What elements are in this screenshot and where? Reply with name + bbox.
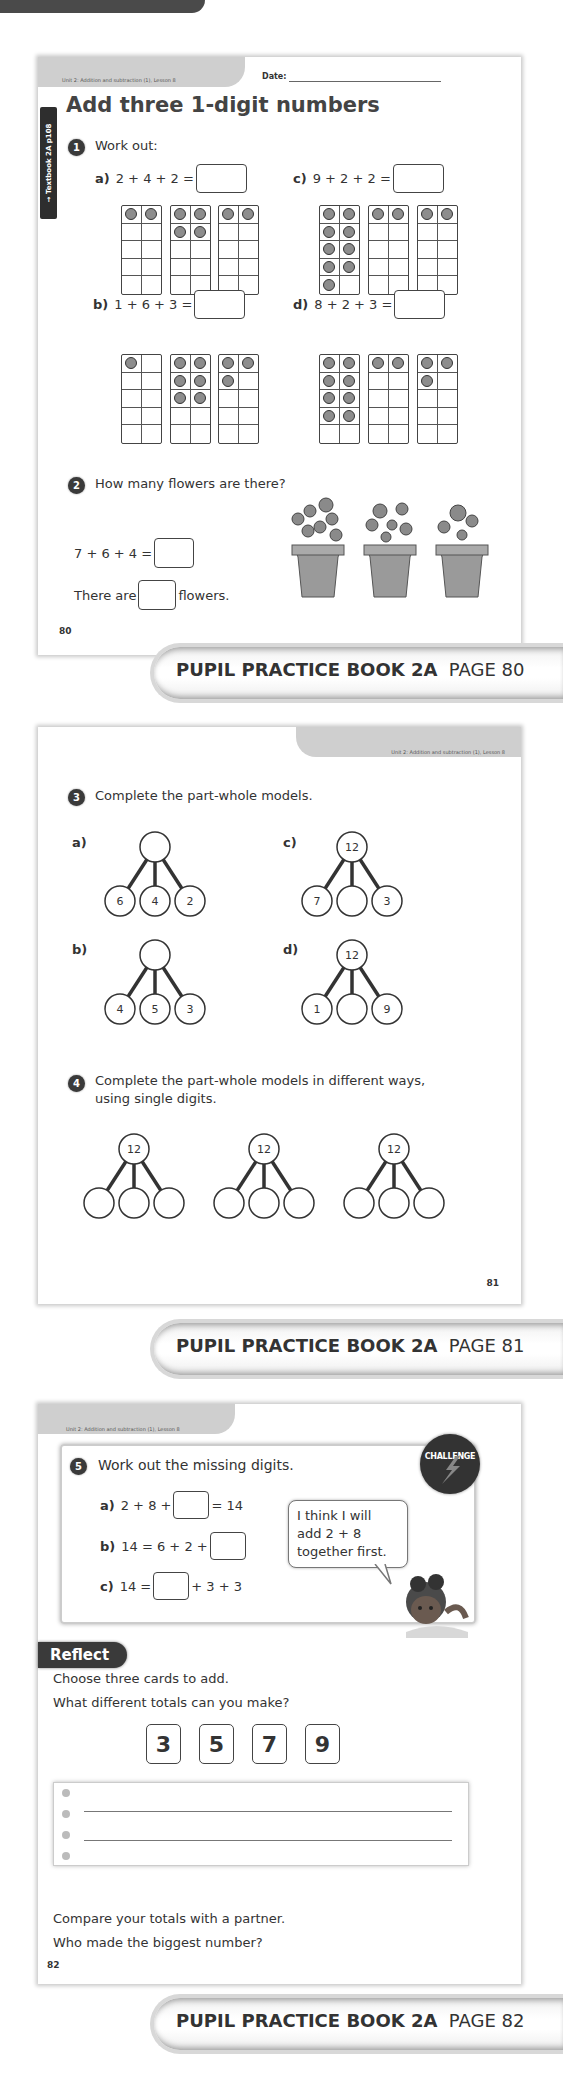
sentence-end: flowers. bbox=[178, 588, 229, 603]
question-number-1: 1 bbox=[68, 139, 85, 156]
ten-frame-cell bbox=[191, 425, 211, 443]
ten-frame-cell bbox=[171, 408, 191, 426]
counter-icon bbox=[194, 208, 206, 220]
question-number-4: 4 bbox=[68, 1075, 85, 1092]
answer-box[interactable] bbox=[210, 1532, 246, 1560]
ten-frame-cell bbox=[418, 408, 438, 426]
ten-frame-cell bbox=[122, 373, 142, 391]
q1-part-c: c) 9 + 2 + 2 = bbox=[293, 164, 444, 193]
counter-icon bbox=[194, 392, 206, 404]
counter-icon bbox=[174, 375, 186, 387]
svg-text:3: 3 bbox=[384, 895, 391, 908]
svg-text:12: 12 bbox=[387, 1143, 401, 1156]
ten-frame-cell bbox=[340, 355, 360, 373]
ten-frame-cell bbox=[142, 373, 162, 391]
whole-circle: 12 bbox=[337, 940, 367, 970]
q1-part-b: b) 1 + 6 + 3 = bbox=[93, 290, 245, 319]
ten-frame-cell bbox=[239, 408, 259, 426]
ten-frame-cell bbox=[171, 425, 191, 443]
part-label-d: d) bbox=[283, 942, 298, 957]
date-field[interactable] bbox=[289, 81, 441, 82]
question-4-prompt-line1: Complete the part-whole models in differ… bbox=[95, 1073, 425, 1088]
ten-frame-cell bbox=[320, 224, 340, 242]
flower-pot-icon bbox=[364, 503, 416, 597]
part-circle[interactable] bbox=[337, 994, 367, 1024]
ten-frame-cell bbox=[369, 355, 389, 373]
part-circle[interactable] bbox=[344, 1188, 374, 1218]
part-whole-model: 642 bbox=[104, 830, 206, 922]
part-circle[interactable] bbox=[119, 1188, 149, 1218]
part-circle[interactable] bbox=[154, 1188, 184, 1218]
ten-frame-cell bbox=[122, 408, 142, 426]
challenge-badge: CHALLENGE bbox=[420, 1434, 480, 1494]
page-number: 80 bbox=[59, 626, 72, 636]
number-card[interactable]: 3 bbox=[146, 1724, 181, 1764]
number-card[interactable]: 7 bbox=[252, 1724, 287, 1764]
ten-frame-cell bbox=[171, 259, 191, 277]
counter-icon bbox=[343, 261, 355, 273]
part-circle: 4 bbox=[140, 886, 170, 916]
part-circle[interactable] bbox=[214, 1188, 244, 1218]
ten-frame-cell bbox=[369, 259, 389, 277]
ten-frame bbox=[121, 205, 162, 295]
svg-text:12: 12 bbox=[345, 841, 359, 854]
part-circle: 4 bbox=[105, 994, 135, 1024]
writing-line[interactable] bbox=[84, 1840, 452, 1841]
number-card[interactable]: 9 bbox=[305, 1724, 340, 1764]
part-circle[interactable] bbox=[337, 886, 367, 916]
ten-frame-cell bbox=[369, 390, 389, 408]
answer-box[interactable] bbox=[394, 290, 445, 319]
footer-label-page-81: PUPIL PRACTICE BOOK 2A PAGE 81 bbox=[150, 1319, 563, 1379]
ten-frame-cell bbox=[389, 355, 409, 373]
part-circle[interactable] bbox=[84, 1188, 114, 1218]
unit-header-text: Unit 2: Addition and subtraction (1), Le… bbox=[66, 1426, 180, 1432]
ten-frame-cell bbox=[142, 224, 162, 242]
answer-box[interactable] bbox=[154, 538, 194, 568]
ten-frame-cell bbox=[219, 224, 239, 242]
ten-frame-cell bbox=[191, 206, 211, 224]
ten-frame-cell bbox=[340, 408, 360, 426]
part-circle[interactable] bbox=[284, 1188, 314, 1218]
counter-icon bbox=[242, 357, 254, 369]
counter-icon bbox=[174, 357, 186, 369]
number-card[interactable]: 5 bbox=[199, 1724, 234, 1764]
ten-frame-cell bbox=[122, 259, 142, 277]
expression: 9 + 2 + 2 = bbox=[313, 171, 391, 186]
counter-icon bbox=[125, 357, 137, 369]
part-circle[interactable] bbox=[249, 1188, 279, 1218]
counter-icon bbox=[343, 226, 355, 238]
part-label: b) bbox=[100, 1539, 115, 1554]
writing-line[interactable] bbox=[84, 1811, 452, 1812]
ten-frame bbox=[368, 354, 409, 444]
ten-frame-cell bbox=[320, 425, 340, 443]
whole-circle[interactable] bbox=[140, 832, 170, 862]
ten-frame-cell bbox=[239, 355, 259, 373]
part-circle[interactable] bbox=[414, 1188, 444, 1218]
ten-frame-cell bbox=[320, 259, 340, 277]
whole-circle[interactable] bbox=[140, 940, 170, 970]
reflect-writing-area[interactable] bbox=[53, 1782, 469, 1866]
page-number: 82 bbox=[47, 1960, 60, 1970]
q5-part-a: a) 2 + 8 + = 14 bbox=[100, 1491, 243, 1519]
reflect-heading: Reflect bbox=[38, 1642, 127, 1668]
ten-frame-cell bbox=[340, 373, 360, 391]
ten-frame bbox=[170, 205, 211, 295]
ten-frame-cell bbox=[320, 373, 340, 391]
textbook-reference-tab[interactable]: → Textbook 2A p108 bbox=[40, 107, 57, 219]
ten-frame-cell bbox=[369, 241, 389, 259]
counter-icon bbox=[174, 208, 186, 220]
answer-box[interactable] bbox=[138, 580, 176, 610]
counter-icon bbox=[222, 375, 234, 387]
svg-text:12: 12 bbox=[257, 1143, 271, 1156]
answer-box[interactable] bbox=[194, 290, 245, 319]
answer-box[interactable] bbox=[393, 164, 444, 193]
ten-frame-cell bbox=[389, 390, 409, 408]
ten-frame-cell bbox=[191, 355, 211, 373]
answer-box[interactable] bbox=[153, 1572, 189, 1600]
answer-box[interactable] bbox=[196, 164, 247, 193]
part-circle[interactable] bbox=[379, 1188, 409, 1218]
ten-frame-cell bbox=[369, 206, 389, 224]
answer-box[interactable] bbox=[173, 1491, 209, 1519]
ten-frame-cell bbox=[418, 373, 438, 391]
part-circle: 5 bbox=[140, 994, 170, 1024]
